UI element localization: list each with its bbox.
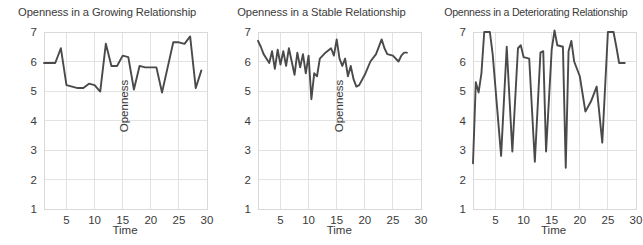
y-tick-label: 7 [245, 26, 251, 38]
chart-panel-growing: Openness in a Growing Relationship Openn… [0, 0, 214, 245]
x-tick-label: 25 [172, 214, 185, 226]
y-tick-label: 7 [31, 26, 37, 38]
y-tick-label: 4 [31, 115, 38, 127]
chart-panel-deteriorating: Openness in a Deteriorating Relationship… [429, 0, 643, 245]
chart-panel-stable: Openness in a Stable Relationship Openne… [214, 0, 428, 245]
x-tick-label: 15 [331, 214, 344, 226]
x-tick-label: 20 [144, 214, 157, 226]
x-tick-label: 30 [201, 214, 214, 226]
x-tick-label: 10 [88, 214, 101, 226]
x-tick-label: 5 [63, 214, 69, 226]
y-tick-label: 3 [459, 144, 465, 156]
y-tick-label: 3 [31, 144, 37, 156]
x-tick-label: 30 [629, 214, 642, 226]
y-tick-label: 2 [245, 174, 251, 186]
x-tick-label: 20 [573, 214, 586, 226]
x-tick-label: 15 [116, 214, 129, 226]
chart-figure: Openness in a Growing Relationship Openn… [0, 0, 643, 245]
plot-area: 123456751015202530 [0, 0, 214, 245]
x-tick-label: 15 [545, 214, 558, 226]
y-tick-label: 6 [31, 56, 37, 68]
y-tick-label: 5 [31, 85, 37, 97]
y-tick-label: 4 [245, 115, 252, 127]
y-tick-label: 3 [245, 144, 251, 156]
x-tick-label: 5 [278, 214, 284, 226]
y-tick-label: 6 [459, 56, 465, 68]
x-tick-label: 5 [492, 214, 498, 226]
y-tick-label: 7 [459, 26, 465, 38]
x-tick-label: 10 [517, 214, 530, 226]
y-tick-label: 4 [459, 115, 466, 127]
y-tick-label: 2 [459, 174, 465, 186]
x-tick-label: 30 [415, 214, 428, 226]
y-axis-label: Openness [333, 46, 347, 166]
plot-area: 123456751015202530 [429, 0, 643, 245]
y-tick-label: 5 [459, 85, 465, 97]
y-tick-label: 1 [245, 203, 251, 215]
y-tick-label: 5 [245, 85, 251, 97]
y-axis-label: Openness [118, 46, 132, 166]
y-tick-label: 1 [31, 203, 37, 215]
x-tick-label: 25 [601, 214, 614, 226]
x-tick-label: 10 [302, 214, 315, 226]
x-tick-label: 20 [359, 214, 372, 226]
y-tick-label: 1 [459, 203, 465, 215]
y-tick-label: 2 [31, 174, 37, 186]
plot-area: 123456751015202530 [214, 0, 428, 245]
y-tick-label: 6 [245, 56, 251, 68]
x-tick-label: 25 [387, 214, 400, 226]
